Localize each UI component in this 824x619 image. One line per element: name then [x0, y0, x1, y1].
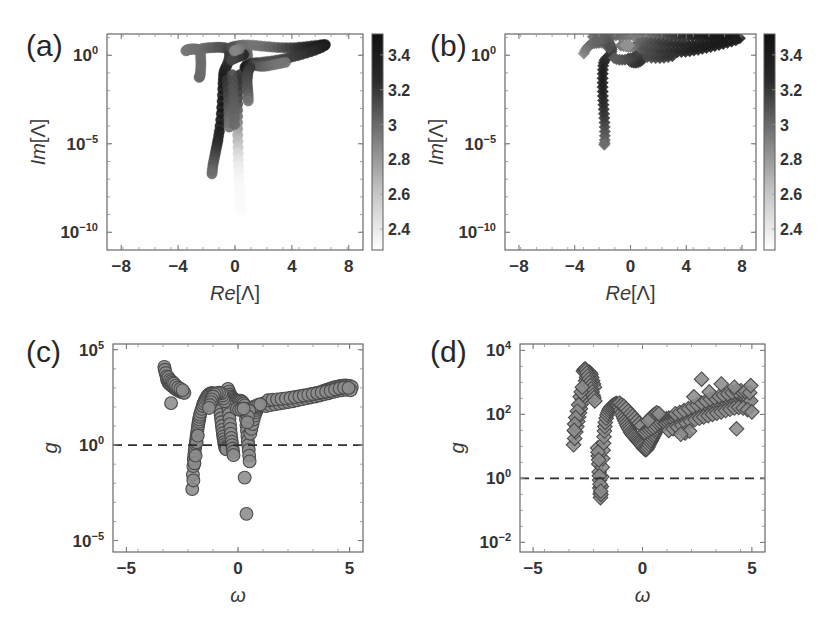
y-tick-label: 100: [73, 44, 98, 65]
data-points-d: [566, 362, 759, 505]
panel-b: (b)−8−404810010−510−10Re[Λ]Im[Λ]3.43.232…: [412, 0, 824, 310]
y-axis-label-a: Im[Λ]: [27, 119, 49, 166]
x-tick-label: 8: [737, 257, 746, 276]
x-axis-label-a: Re[Λ]: [210, 282, 260, 304]
colorbar-tick-label: 2.8: [388, 151, 410, 168]
colorbar-tick-label: 3: [388, 117, 397, 134]
data-points-b: [578, 30, 746, 151]
panel-letter-b: (b): [430, 29, 467, 62]
panel-letter-c: (c): [26, 335, 61, 368]
colorbar-tick-label: 3.4: [388, 47, 410, 64]
y-tick-label: 10−10: [60, 221, 98, 242]
colorbar-tick-label: 3.2: [388, 82, 410, 99]
x-tick-label: 0: [638, 559, 647, 578]
x-tick-label: −8: [509, 257, 528, 276]
x-tick-label: −4: [168, 257, 188, 276]
x-tick-label: −5: [117, 559, 136, 578]
colorbar-gradient-b: [764, 34, 775, 250]
y-tick-label: 105: [79, 339, 104, 360]
panel-letter-d: (d): [430, 335, 467, 368]
y-axis-label-b: Im[Λ]: [425, 119, 447, 166]
colorbar-tick-label: 3: [780, 117, 789, 134]
data-points-c: [158, 360, 358, 520]
colorbar-tick-label: 2.6: [780, 186, 802, 203]
y-tick-label: 10−5: [73, 530, 104, 551]
y-tick-label: 104: [486, 339, 512, 360]
x-axis-label-b: Re[Λ]: [605, 282, 655, 304]
y-tick-label: 100: [486, 467, 511, 488]
x-tick-label: 5: [345, 559, 354, 578]
colorbar-tick-label: 3.2: [780, 82, 802, 99]
colorbar-tick-label: 2.4: [388, 221, 410, 238]
x-tick-label: 8: [344, 257, 353, 276]
x-axis-label-c: ω: [230, 584, 246, 606]
x-tick-label: 0: [233, 559, 242, 578]
panel-c: (c)−50510510010−5ωg: [0, 310, 412, 619]
y-tick-label: 100: [471, 44, 496, 65]
x-axis-label-d: ω: [635, 584, 651, 606]
x-tick-label: 0: [626, 257, 635, 276]
x-tick-label: 5: [747, 559, 756, 578]
y-tick-label: 102: [486, 403, 511, 424]
colorbar-gradient-a: [372, 34, 383, 250]
x-tick-label: −4: [565, 257, 585, 276]
colorbar-tick-label: 3.4: [780, 47, 802, 64]
panel-d: (d)−50510410210010−2ωg: [412, 310, 824, 619]
x-tick-label: 4: [682, 257, 692, 276]
colorbar-tick-label: 2.4: [780, 221, 802, 238]
colorbar-tick-label: 2.6: [388, 186, 410, 203]
data-points-a: [181, 39, 331, 215]
x-tick-label: 4: [287, 257, 297, 276]
y-tick-label: 10−10: [458, 221, 496, 242]
x-tick-label: −5: [523, 559, 542, 578]
y-tick-label: 10−5: [465, 133, 496, 154]
y-tick-label: 10−5: [67, 133, 98, 154]
figure-root: (a)−8−404810010−510−10Re[Λ]Im[Λ]3.43.232…: [0, 0, 824, 619]
y-axis-label-d: g: [446, 442, 468, 453]
colorbar-tick-label: 2.8: [780, 151, 802, 168]
y-axis-label-c: g: [39, 442, 61, 453]
panel-letter-a: (a): [26, 29, 63, 62]
x-tick-label: −8: [112, 257, 131, 276]
y-tick-label: 10−2: [480, 531, 511, 552]
panel-a: (a)−8−404810010−510−10Re[Λ]Im[Λ]3.43.232…: [0, 0, 412, 310]
x-tick-label: 0: [230, 257, 239, 276]
y-tick-label: 100: [79, 434, 104, 455]
